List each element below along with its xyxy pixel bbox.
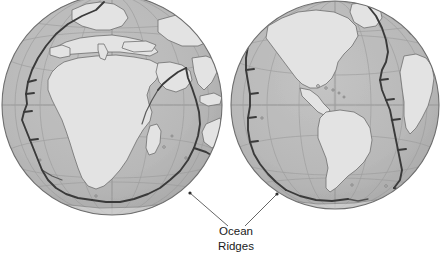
island-dot	[385, 185, 387, 187]
island-dot	[317, 85, 320, 88]
ridge-transform	[392, 119, 400, 120]
island-dot	[351, 184, 353, 186]
leader-endpoint-right	[275, 192, 278, 195]
island-dot	[261, 117, 263, 119]
island-dot	[338, 92, 340, 94]
ridge-transform	[26, 93, 34, 94]
iberia-landmass	[50, 45, 70, 58]
ocean-ridges-label-line1: Ocean	[219, 225, 253, 237]
island-dot	[163, 146, 165, 148]
ridge-transform	[30, 139, 38, 140]
ridge-transform	[386, 99, 394, 100]
globes-illustration: Ocean Ridges	[0, 0, 446, 260]
island-dot	[325, 87, 327, 89]
ocean-ridges-figure: Ocean Ridges	[0, 0, 446, 260]
ocean-ridges-label-line2: Ridges	[218, 240, 254, 252]
ridge-transform	[380, 79, 388, 80]
island-dot	[171, 135, 173, 137]
island-dot	[343, 96, 345, 98]
ridge-transform	[250, 141, 258, 142]
island-dot	[332, 89, 334, 91]
ridge-transform	[250, 93, 258, 94]
island-dot	[185, 157, 187, 159]
indonesia-landmass	[200, 93, 222, 106]
island-dot	[95, 195, 97, 197]
ridge-transform	[248, 117, 256, 118]
ridge-transform	[24, 111, 32, 112]
leader-endpoint-left	[188, 191, 191, 194]
ridge-transform	[398, 149, 406, 150]
ridge-transform	[246, 69, 254, 70]
